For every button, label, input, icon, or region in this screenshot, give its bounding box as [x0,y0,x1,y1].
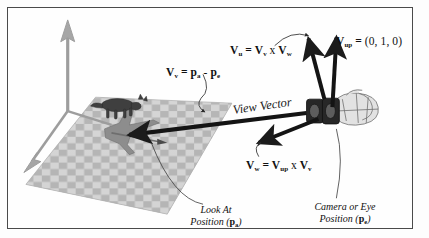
caption-look-at-position: Look At Position (pa) [166,204,266,228]
figure-frame: Vu = Vv x Vw Vup = (0, 1, 0) Vv = pa - p… [7,7,413,229]
label-v-up-text: Vup = (0, 1, 0) [336,35,402,47]
v-w-arrow [259,119,319,143]
label-v-v: Vv = pa - pe [166,67,220,80]
symbol-p-e: pe [359,213,367,224]
caption-eye-line1: Camera or Eye [314,201,375,212]
v-u-arrow [309,39,325,99]
caption-look-at-line2: Position (pa) [190,216,241,227]
label-v-u-text: Vu = Vv x Vw [230,44,292,56]
symbol-p-a: pa [230,216,239,227]
label-v-v-text: Vv = pa - pe [166,66,220,78]
label-v-w-text: Vw = Vup x Vv [246,159,312,171]
label-v-w: Vw = Vup x Vv [246,160,312,173]
caption-eye-position: Camera or Eye Position (pe) [289,201,401,225]
caption-eye-line2: Position (pe) [320,213,371,224]
label-v-up: Vup = (0, 1, 0) [336,36,402,49]
caption-look-at-line1: Look At [200,204,231,215]
figure-camera-view-vectors: Vu = Vv x Vw Vup = (0, 1, 0) Vv = pa - p… [0,0,429,238]
label-v-u: Vu = Vv x Vw [230,45,292,58]
